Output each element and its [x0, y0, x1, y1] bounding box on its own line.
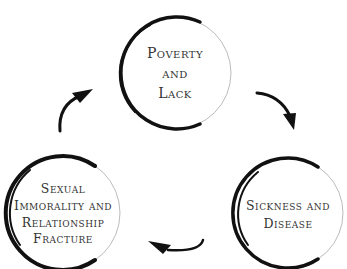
arrow-immorality-to-poverty-icon	[60, 89, 93, 131]
node-label-line: Immorality and	[14, 198, 112, 215]
node-label-line: Sickness and	[246, 197, 330, 215]
cycle-diagram: Poverty and Lack Sickness and Disease Se…	[0, 0, 347, 269]
arrow-sickness-to-immorality-icon	[148, 240, 203, 254]
node-label-line: Poverty	[147, 43, 203, 63]
node-label-line: Disease	[263, 215, 312, 233]
node-label-poverty: Poverty and Lack	[125, 42, 225, 104]
node-label-sickness: Sickness and Disease	[232, 193, 344, 237]
node-label-line: and	[162, 63, 188, 83]
arrow-poverty-to-sickness-icon	[257, 93, 296, 130]
node-label-line: Lack	[158, 83, 192, 103]
node-label-line: Sexual	[41, 181, 85, 198]
node-label-line: Relationship	[22, 215, 104, 232]
node-label-immorality: Sexual Immorality and Relationship Fract…	[4, 177, 122, 252]
node-label-line: Fracture	[33, 231, 93, 248]
